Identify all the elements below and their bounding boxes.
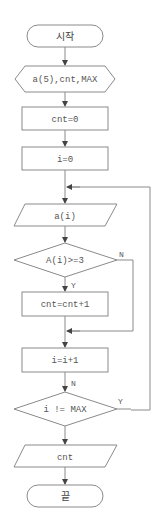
init-i-box: i=0	[22, 147, 108, 170]
cond1-yes-label: Y	[71, 281, 76, 290]
input-parallelogram: a(i)	[14, 204, 117, 226]
declare-hexagon: a(5),cnt,MAX	[15, 66, 115, 92]
end-terminal: 끝	[27, 485, 103, 507]
cond1-label: A(i)>=3	[46, 256, 84, 266]
init-i-label: i=0	[57, 155, 73, 165]
cond2-diamond: i != MAX	[14, 392, 117, 426]
init-cnt-label: cnt=0	[51, 115, 78, 125]
increment-i-label: i=i+1	[51, 356, 78, 366]
output-parallelogram: cnt	[14, 445, 117, 467]
init-cnt-box: cnt=0	[22, 107, 108, 130]
declare-label: a(5),cnt,MAX	[33, 75, 98, 85]
cond1-no-label: N	[119, 250, 124, 259]
input-label: a(i)	[54, 212, 76, 222]
output-label: cnt	[57, 453, 73, 463]
end-label: 끝	[61, 491, 70, 502]
cond2-yes-label: Y	[118, 397, 123, 406]
flowchart: 시작 a(5),cnt,MAX cnt=0 i=0 a(i) A(i)>=3 N…	[0, 0, 159, 524]
increment-i-box: i=i+1	[22, 348, 108, 372]
cond2-label: i != MAX	[43, 405, 87, 415]
increment-cnt-label: cnt=cnt+1	[41, 300, 90, 310]
increment-cnt-box: cnt=cnt+1	[22, 292, 108, 316]
start-label: 시작	[56, 31, 74, 42]
start-terminal: 시작	[27, 25, 103, 47]
edge-n-label: N	[71, 379, 76, 388]
cond1-diamond: A(i)>=3	[14, 243, 117, 277]
